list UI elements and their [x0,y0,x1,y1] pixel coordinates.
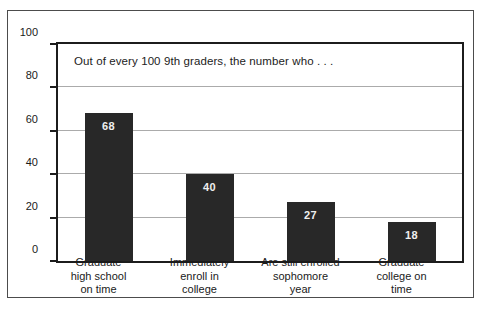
bar-value-label-4: 18 [388,222,436,241]
bar-3: 27 [287,202,335,261]
x-axis-label-1: Graduatehigh schoolon time [48,256,149,297]
y-axis-label-60: 60 [8,114,38,125]
y-axis-tick-20 [50,217,57,219]
x-axis-label-3: Are still enrolledsophomoreyear [250,256,351,297]
x-axis-label-2: Immediatelyenroll incollege [149,256,250,297]
y-axis-tick-80 [50,86,57,88]
y-axis-label-20: 20 [8,201,38,212]
chart-title: Out of every 100 9th graders, the number… [74,55,333,67]
plot-area: Out of every 100 9th graders, the number… [56,42,464,263]
bar-value-label-1: 68 [85,113,133,132]
bar-value-label-2: 40 [186,174,234,193]
bar-2: 40 [186,174,234,261]
y-axis-tick-40 [50,173,57,175]
y-axis-label-100: 100 [8,27,38,38]
x-axis-label-4: Graduatecollege ontime [351,256,452,297]
y-axis-tick-100 [50,43,57,45]
gridline-80 [58,86,462,87]
y-axis-tick-60 [50,130,57,132]
bar-4: 18 [388,222,436,261]
chart-outer-border: Out of every 100 9th graders, the number… [7,10,474,298]
bar-1: 68 [85,113,133,261]
y-axis-label-80: 80 [8,70,38,81]
bar-chart-figure: Out of every 100 9th graders, the number… [0,0,487,311]
bar-value-label-3: 27 [287,202,335,221]
y-axis-label-40: 40 [8,157,38,168]
y-axis-label-0: 0 [8,244,38,255]
